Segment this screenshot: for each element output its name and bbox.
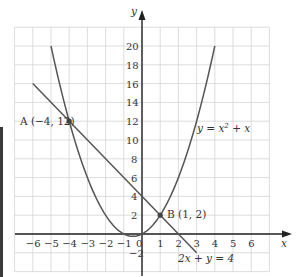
- x-tick-label: 3: [194, 238, 200, 249]
- x-tick-label: 1: [157, 238, 163, 249]
- x-tick-label: −5: [44, 238, 59, 249]
- y-tick-label: 18: [126, 60, 139, 71]
- axes: [15, 10, 292, 276]
- y-tick-label: 10: [126, 135, 139, 146]
- point-b-marker: [158, 213, 163, 218]
- point-a-label: A (−4, 12): [19, 115, 75, 127]
- y-tick-label: 12: [126, 116, 139, 127]
- y-tick-label: 8: [131, 154, 137, 165]
- y-axis-label: y: [130, 5, 138, 17]
- x-tick-label: −4: [62, 238, 77, 249]
- y-tick-label: 20: [126, 41, 139, 52]
- line-label: 2x + y = 4: [177, 252, 234, 264]
- graph-plot: −6−5−4−3−2−1123456−22468101214161820 x y…: [0, 0, 297, 277]
- y-tick-label: −2: [129, 248, 144, 259]
- y-tick-label: 14: [126, 97, 139, 108]
- y-tick-label: 6: [131, 173, 137, 184]
- tick-labels: −6−5−4−3−2−1123456−22468101214161820: [26, 41, 255, 259]
- y-axis-arrow-icon: [139, 10, 146, 20]
- x-axis-label: x: [281, 237, 287, 249]
- x-tick-label: −2: [99, 238, 114, 249]
- x-tick-label: 5: [230, 238, 236, 249]
- y-tick-label: 2: [131, 210, 137, 221]
- x-tick-label: 4: [212, 238, 218, 249]
- y-tick-label: 16: [126, 79, 139, 90]
- y-tick-label: 4: [131, 191, 137, 202]
- parabola-label: y = x2 + x: [196, 122, 250, 134]
- x-tick-label: 6: [248, 238, 254, 249]
- x-tick-label: −3: [80, 238, 95, 249]
- origin-label: 0: [136, 238, 142, 249]
- point-b-label: B (1, 2): [167, 208, 206, 220]
- x-tick-label: −6: [26, 238, 41, 249]
- x-tick-label: 2: [175, 238, 181, 249]
